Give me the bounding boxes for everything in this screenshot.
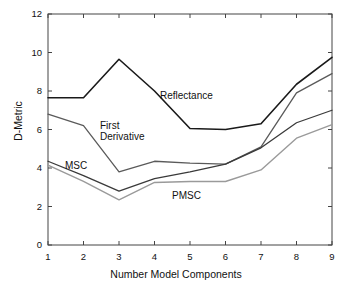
y-tick-label: 4 [10, 163, 42, 173]
x-tick-label: 2 [69, 252, 99, 262]
x-tick-label: 6 [211, 252, 241, 262]
plot-frame [48, 14, 332, 245]
annotation-pmsc: PMSC [172, 190, 201, 202]
y-tick-label: 12 [10, 9, 42, 19]
series-line-msc [48, 110, 332, 191]
chart-figure: 024681012123456789 ReflectanceFirstDeriv… [0, 0, 352, 290]
x-tick-label: 8 [282, 252, 312, 262]
y-tick-label: 0 [10, 240, 42, 250]
annotation-msc: MSC [65, 160, 87, 172]
axes-frame [48, 14, 332, 245]
y-tick-label: 2 [10, 202, 42, 212]
annotation-first: First [100, 120, 119, 132]
annotation-reflectance: Reflectance [160, 90, 213, 102]
x-tick-label: 9 [317, 252, 347, 262]
line-chart-plot [0, 0, 352, 290]
x-tick-label: 3 [104, 252, 134, 262]
annotation-derivative: Derivative [100, 131, 144, 143]
data-series [48, 57, 332, 199]
series-line-first-derivative [48, 74, 332, 172]
y-axis-title: D-Metric [12, 81, 24, 161]
x-tick-label: 4 [140, 252, 170, 262]
y-tick-label: 10 [10, 48, 42, 58]
x-tick-label: 1 [33, 252, 63, 262]
x-tick-label: 5 [175, 252, 205, 262]
axis-ticks [48, 14, 332, 245]
x-axis-title: Number Model Components [0, 268, 352, 280]
x-tick-label: 7 [246, 252, 276, 262]
